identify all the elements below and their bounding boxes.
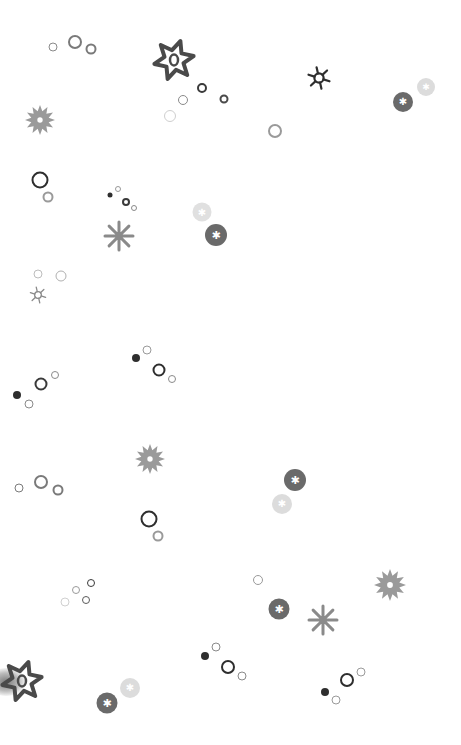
ring-icon [212, 643, 221, 652]
ring-icon [357, 668, 366, 677]
ring-icon [53, 485, 64, 496]
star-outline-icon [0, 659, 44, 703]
ring-icon [238, 672, 247, 681]
ring-icon [115, 186, 121, 192]
asterisk-icon [103, 220, 135, 252]
ring-icon [82, 596, 90, 604]
ring-icon [34, 475, 48, 489]
ring-icon [87, 579, 95, 587]
dot-icon [13, 391, 21, 399]
ring-icon [32, 172, 49, 189]
ring-icon [221, 660, 235, 674]
dot-icon [321, 688, 329, 696]
ring-icon [197, 83, 207, 93]
asterisk-badge-icon: ✱ [417, 78, 435, 96]
asterisk-badge-icon: ✱ [97, 693, 118, 714]
ring-icon [51, 371, 59, 379]
ring-icon [35, 378, 48, 391]
ring-icon [340, 673, 354, 687]
asterisk-badge-icon: ✱ [393, 92, 413, 112]
ring-icon [25, 400, 34, 409]
ring-icon [332, 696, 341, 705]
star-outline-icon [152, 38, 196, 82]
flower-icon [133, 442, 167, 476]
asterisk-badge-icon: ✱ [269, 599, 290, 620]
sun-icon [27, 284, 49, 306]
asterisk-badge-icon: ✱ [272, 494, 292, 514]
ring-icon [131, 205, 137, 211]
ring-icon [34, 270, 43, 279]
ring-icon [56, 271, 67, 282]
sun-icon [305, 64, 333, 92]
ring-icon [68, 35, 82, 49]
ring-icon [141, 511, 158, 528]
asterisk-badge-icon: ✱ [205, 224, 227, 246]
ring-icon [143, 346, 152, 355]
dot-icon [201, 652, 209, 660]
ring-icon [268, 124, 282, 138]
ring-icon [43, 192, 54, 203]
asterisk-icon [307, 604, 339, 636]
flower-icon [23, 103, 57, 137]
pattern-canvas: ✱✱✱✱✱✱✱✱✱ [0, 0, 461, 745]
ring-icon [253, 575, 263, 585]
ring-icon [61, 598, 70, 607]
ring-icon [178, 95, 188, 105]
ring-icon [49, 43, 58, 52]
ring-icon [72, 586, 80, 594]
asterisk-badge-icon: ✱ [193, 203, 212, 222]
dot-icon [108, 193, 113, 198]
ring-icon [86, 44, 97, 55]
ring-icon [15, 484, 24, 493]
flower-icon [372, 567, 408, 603]
ring-icon [153, 364, 166, 377]
asterisk-badge-icon: ✱ [284, 469, 306, 491]
ring-icon [153, 531, 164, 542]
ring-icon [164, 110, 176, 122]
ring-icon [168, 375, 176, 383]
ring-icon [220, 95, 229, 104]
dot-icon [132, 354, 140, 362]
asterisk-badge-icon: ✱ [120, 678, 140, 698]
ring-icon [122, 198, 130, 206]
